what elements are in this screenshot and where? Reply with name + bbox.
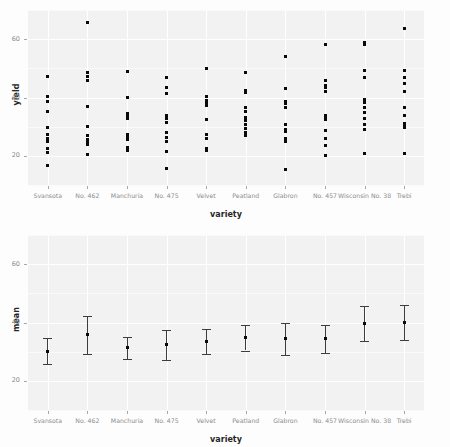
mean-point bbox=[363, 322, 366, 325]
gridline-x-major bbox=[87, 10, 88, 185]
data-point bbox=[46, 110, 49, 113]
x-tick-mark bbox=[365, 411, 366, 414]
error-bar-cap-lower bbox=[43, 364, 52, 365]
error-bar-cap-upper bbox=[281, 323, 290, 324]
data-point bbox=[86, 71, 89, 74]
x-tick-mark bbox=[325, 186, 326, 189]
data-point bbox=[126, 138, 129, 141]
gridline-x-major bbox=[246, 10, 247, 185]
data-point bbox=[403, 76, 406, 79]
error-bar-cap-lower bbox=[241, 351, 250, 352]
data-point bbox=[403, 27, 406, 30]
data-point bbox=[363, 152, 366, 155]
data-point bbox=[403, 114, 406, 117]
y-tick-mark bbox=[24, 381, 27, 382]
data-point bbox=[244, 123, 247, 126]
data-point bbox=[126, 96, 129, 99]
data-point bbox=[324, 90, 327, 93]
data-point bbox=[324, 118, 327, 121]
data-point bbox=[46, 126, 49, 129]
data-point bbox=[324, 43, 327, 46]
y-tick-mark bbox=[24, 39, 27, 40]
data-point bbox=[324, 144, 327, 147]
data-point bbox=[244, 71, 247, 74]
y-tick-label: 20 bbox=[0, 152, 20, 159]
data-point bbox=[46, 147, 49, 150]
yield-strip-plot-figure: yield variety 204060SvansotaNo. 462Manch… bbox=[0, 0, 450, 225]
data-point bbox=[205, 133, 208, 136]
data-point bbox=[86, 153, 89, 156]
gridline-x-major bbox=[206, 235, 207, 410]
data-point bbox=[363, 123, 366, 126]
data-point bbox=[403, 82, 406, 85]
x-tick-mark bbox=[206, 411, 207, 414]
data-point bbox=[205, 137, 208, 140]
data-point bbox=[46, 133, 49, 136]
error-bar-cap-upper bbox=[162, 330, 171, 331]
data-point bbox=[324, 154, 327, 157]
x-tick-mark bbox=[365, 186, 366, 189]
gridline-x-major bbox=[325, 10, 326, 185]
data-point bbox=[205, 118, 208, 121]
data-point bbox=[205, 95, 208, 98]
data-point bbox=[205, 104, 208, 107]
x-tick-mark bbox=[48, 186, 49, 189]
data-point bbox=[86, 21, 89, 24]
data-point bbox=[403, 90, 406, 93]
mean-point bbox=[403, 321, 406, 324]
x-tick-mark bbox=[206, 186, 207, 189]
x-tick-mark bbox=[87, 411, 88, 414]
data-point bbox=[86, 125, 89, 128]
gridline-x-major bbox=[127, 235, 128, 410]
data-point bbox=[244, 106, 247, 109]
data-point bbox=[46, 140, 49, 143]
data-point bbox=[363, 106, 366, 109]
data-point bbox=[165, 150, 168, 153]
data-point bbox=[363, 111, 366, 114]
data-point bbox=[165, 76, 168, 79]
data-point bbox=[324, 137, 327, 140]
error-bar-cap-upper bbox=[400, 305, 409, 306]
mean-point bbox=[284, 337, 287, 340]
data-point bbox=[284, 55, 287, 58]
gridline-x-major bbox=[285, 10, 286, 185]
data-point bbox=[284, 130, 287, 133]
data-point bbox=[165, 117, 168, 120]
x-tick-label: Trebi bbox=[364, 418, 444, 424]
data-point bbox=[244, 134, 247, 137]
y-tick-label: 60 bbox=[0, 261, 20, 268]
x-tick-mark bbox=[87, 186, 88, 189]
mean-point bbox=[165, 343, 168, 346]
data-point bbox=[284, 102, 287, 105]
y-tick-label: 60 bbox=[0, 36, 20, 43]
gridline-x-major bbox=[48, 235, 49, 410]
y-tick-mark bbox=[24, 98, 27, 99]
data-point bbox=[403, 106, 406, 109]
mean-point bbox=[86, 333, 89, 336]
error-bar-cap-upper bbox=[83, 316, 92, 317]
error-bar-cap-upper bbox=[202, 329, 211, 330]
data-point bbox=[363, 43, 366, 46]
gridline-x-major bbox=[246, 235, 247, 410]
data-point bbox=[284, 87, 287, 90]
mean-point bbox=[46, 350, 49, 353]
data-point bbox=[284, 168, 287, 171]
data-point bbox=[46, 164, 49, 167]
x-tick-mark bbox=[246, 186, 247, 189]
error-bar-cap-lower bbox=[202, 354, 211, 355]
error-bar-cap-lower bbox=[360, 341, 369, 342]
y-tick-mark bbox=[24, 156, 27, 157]
data-point bbox=[165, 167, 168, 170]
variety-axis-title-bottom: variety bbox=[28, 435, 424, 444]
mean-point bbox=[324, 337, 327, 340]
data-point bbox=[403, 152, 406, 155]
x-tick-mark bbox=[127, 186, 128, 189]
x-tick-mark bbox=[167, 411, 168, 414]
data-point bbox=[86, 134, 89, 137]
data-point bbox=[165, 86, 168, 89]
data-point bbox=[284, 123, 287, 126]
data-point bbox=[284, 106, 287, 109]
error-bar-cap-upper bbox=[321, 325, 330, 326]
x-tick-mark bbox=[246, 411, 247, 414]
data-point bbox=[165, 131, 168, 134]
